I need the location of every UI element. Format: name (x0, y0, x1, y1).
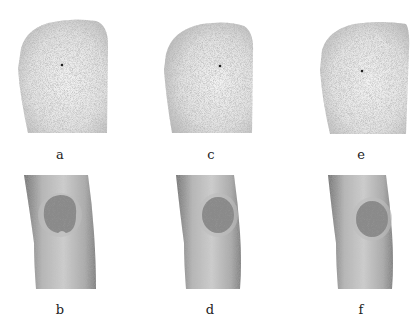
panel-label-b: b (56, 303, 64, 316)
marker-dot (61, 64, 64, 67)
panel-label-e: e (357, 148, 365, 161)
knee-image (22, 173, 102, 291)
panel-label-f: f (359, 303, 364, 316)
skin-patch (202, 197, 234, 233)
panel-c-point-cloud (162, 20, 258, 136)
panel-label-d: d (206, 303, 214, 316)
panel-a-point-cloud (14, 17, 112, 137)
knee-image (326, 173, 398, 291)
marker-dot (219, 65, 222, 68)
skin-patch (44, 195, 76, 233)
point-cloud-image (162, 20, 258, 136)
panel-d-textured-knee (174, 173, 246, 291)
panel-e-point-cloud (318, 20, 412, 136)
panel-b-textured-knee (22, 173, 102, 291)
point-cloud-image (318, 20, 412, 136)
panel-f-textured-knee (326, 173, 398, 291)
point-cloud-image (14, 17, 112, 137)
panel-label-c: c (207, 148, 214, 161)
knee-image (174, 173, 246, 291)
skin-patch (356, 201, 388, 237)
marker-dot (361, 70, 364, 73)
panel-label-a: a (56, 148, 64, 161)
